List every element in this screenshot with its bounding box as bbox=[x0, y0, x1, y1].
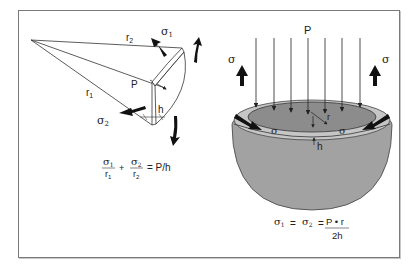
svg-text:σ1: σ1 bbox=[103, 156, 114, 168]
svg-text:σ1: σ1 bbox=[274, 216, 285, 228]
svg-text:r1: r1 bbox=[105, 169, 112, 180]
svg-text:+: + bbox=[119, 163, 124, 173]
hoop-stress-equation: σ1 = σ2 = P • r 2h bbox=[274, 216, 349, 241]
shell-front-edge bbox=[152, 82, 156, 125]
sigma1-arrow-top bbox=[151, 38, 167, 57]
sigma1-arrow-right bbox=[193, 37, 202, 63]
sigma-up-arrow-left bbox=[236, 65, 248, 86]
sigma-label-right: σ bbox=[382, 53, 390, 66]
sigma-up-arrow-right bbox=[369, 65, 381, 86]
p-label: P bbox=[304, 24, 311, 36]
svg-text:=: = bbox=[290, 218, 296, 229]
r2-label: r2 bbox=[126, 32, 133, 44]
svg-text:=: = bbox=[318, 218, 324, 229]
svg-text:σ2: σ2 bbox=[302, 216, 313, 228]
svg-text:P • r: P • r bbox=[326, 216, 344, 227]
sigma2-arrow-left bbox=[119, 106, 146, 116]
shell-top-edge bbox=[152, 48, 184, 86]
r1-label: r1 bbox=[86, 87, 93, 99]
diagram-canvas: r2 r1 σ1 σ2 P h σ1 r1 + σ2 r2 = P/h bbox=[0, 0, 415, 269]
h-label: h bbox=[317, 141, 323, 152]
sigma2-arrow-bottom bbox=[170, 116, 180, 146]
laplace-equation: σ1 r1 + σ2 r2 = P/h bbox=[102, 156, 171, 180]
svg-text:r2: r2 bbox=[133, 169, 140, 180]
r-label: r bbox=[327, 112, 330, 122]
sigma-rim-label-right: σ bbox=[339, 125, 346, 136]
shell-element-figure: r2 r1 σ1 σ2 P h bbox=[31, 25, 202, 146]
svg-text:= P/h: = P/h bbox=[147, 162, 171, 173]
sigma-rim-label-left: σ bbox=[271, 125, 278, 136]
bowl-inner bbox=[248, 102, 376, 132]
h-label: h bbox=[158, 104, 164, 115]
hemisphere-figure: P σ σ σ σ r h bbox=[228, 24, 392, 210]
svg-text:σ2: σ2 bbox=[131, 156, 142, 168]
sigma-label-left: σ bbox=[228, 53, 236, 66]
p-label: P bbox=[131, 79, 138, 90]
sigma2-label: σ2 bbox=[97, 114, 109, 128]
p-direction-line bbox=[31, 40, 165, 88]
svg-text:2h: 2h bbox=[332, 230, 343, 241]
sigma1-label: σ1 bbox=[161, 25, 173, 39]
